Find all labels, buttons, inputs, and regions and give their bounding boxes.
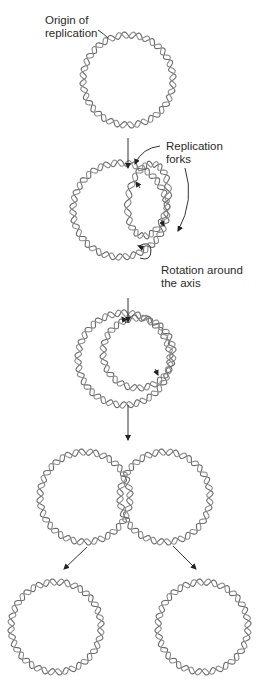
label-origin-line2: replication — [45, 27, 97, 40]
flow-arrow-left — [64, 547, 87, 569]
dna-bubble-stage2-inner — [124, 161, 171, 239]
dna-circle-daughter-interlinked-left — [37, 449, 133, 545]
fork-arrow-inner-4 — [155, 369, 158, 375]
label-rotation-line1: Rotation around — [161, 264, 243, 277]
dna-circle-daughter-interlinked-right — [117, 449, 213, 545]
label-rotation-line2: the axis — [161, 277, 243, 290]
dna-circle-daughter-right — [155, 579, 251, 675]
fork-arrow-inner-1 — [136, 182, 140, 188]
origin-pointer-line — [98, 30, 108, 38]
dna-circle-stage2-outer — [70, 160, 170, 260]
label-replication-forks: Replication forks — [166, 140, 223, 166]
dna-replication-diagram — [0, 0, 274, 683]
dna-circle-parental — [80, 32, 176, 128]
label-forks-line1: Replication — [166, 140, 223, 153]
dna-circle-daughter-left — [8, 579, 104, 675]
fork-pointer-bottom — [178, 168, 189, 231]
flow-arrow-right — [173, 546, 196, 569]
label-rotation-around-axis: Rotation around the axis — [161, 264, 243, 290]
label-origin-of-replication: Origin of replication — [45, 14, 97, 40]
label-forks-line2: forks — [166, 153, 223, 166]
dna-circle-stage3-inner — [100, 315, 176, 391]
label-origin-line1: Origin of — [45, 14, 97, 27]
